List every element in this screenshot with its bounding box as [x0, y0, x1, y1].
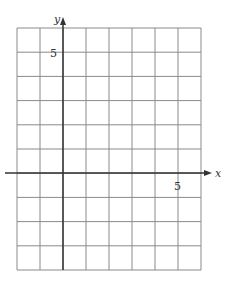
- x-axis-label: x: [215, 167, 222, 180]
- y-axis-arrow-icon: [60, 17, 66, 25]
- y-tick-label-5: 5: [50, 47, 57, 60]
- grid-lines: [17, 28, 201, 270]
- x-tick-label-5: 5: [174, 180, 181, 193]
- y-axis-label: y: [53, 13, 61, 26]
- coordinate-grid: x y 5 5: [0, 0, 228, 285]
- x-axis-arrow-icon: [204, 170, 212, 176]
